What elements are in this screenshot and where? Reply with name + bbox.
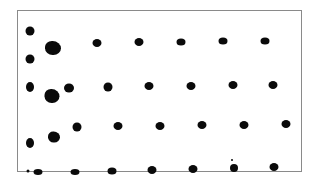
dot — [219, 38, 228, 45]
dot — [270, 163, 279, 171]
dot — [145, 82, 154, 90]
dot — [26, 27, 35, 36]
dot — [231, 159, 233, 161]
dot — [282, 120, 291, 128]
dot — [108, 168, 117, 175]
dot — [26, 82, 34, 92]
dot — [148, 166, 157, 174]
dot — [114, 122, 123, 130]
dot — [187, 82, 196, 90]
image-frame — [17, 10, 302, 172]
dot — [26, 55, 35, 64]
dot — [189, 165, 198, 173]
dot — [156, 122, 165, 130]
dot — [269, 81, 278, 89]
dot — [45, 89, 60, 103]
dot — [71, 169, 80, 175]
dot — [34, 169, 43, 175]
dot — [198, 121, 207, 129]
dot — [93, 39, 102, 47]
dot — [64, 84, 74, 93]
dot — [261, 38, 270, 45]
dot — [177, 39, 186, 46]
dot — [240, 121, 249, 129]
dot — [230, 164, 238, 172]
dot — [26, 138, 34, 148]
dot — [27, 170, 30, 173]
dot — [48, 132, 60, 143]
dot — [135, 38, 144, 46]
dot — [229, 81, 238, 89]
dot — [104, 83, 113, 92]
dot — [45, 41, 61, 55]
dot — [73, 123, 82, 132]
